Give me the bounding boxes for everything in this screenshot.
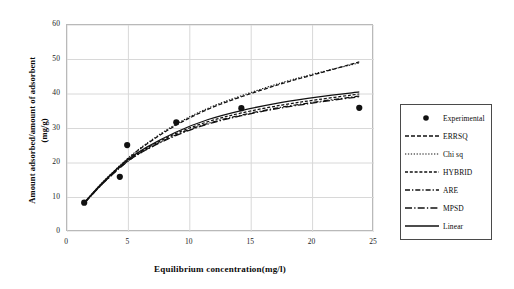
chart-figure: Amount adsorbed/amount of adsorbent (mg/… [0,0,514,289]
scatter-series-experimental [81,105,362,206]
legend-label: ARE [440,186,458,195]
y-axis-tick-label: 50 [34,54,60,63]
plot-area [66,24,373,231]
legend-key-icon [404,202,440,214]
legend-item-hybrid[interactable]: HYBRID [404,163,488,181]
y-axis-tick-label: 40 [34,88,60,97]
x-axis-tick-label: 0 [54,237,78,246]
data-point [356,105,362,111]
y-axis-tick-label: 30 [34,123,60,132]
x-axis-tick-label: 5 [115,237,139,246]
data-point [124,142,130,148]
data-point [238,105,244,111]
legend-item-mpsd[interactable]: MPSD [404,199,488,217]
legend-label: ERRSQ [440,132,468,141]
x-axis-tick-label: 25 [361,237,385,246]
x-axis-tick-label: 15 [238,237,262,246]
legend-label: MPSD [440,204,464,213]
legend-key-icon [404,148,440,160]
series-line-chi-sq [84,63,359,203]
legend-label: HYBRID [440,168,472,177]
y-axis-tick-label: 0 [34,226,60,235]
legend-item-linear[interactable]: Linear [404,217,488,235]
legend-label: Linear [440,222,463,231]
x-axis-title: Equilibrium concentration(mg/l) [66,264,374,274]
data-point [117,174,123,180]
data-point [173,119,179,125]
gridlines [67,25,374,232]
legend-item-chi-sq[interactable]: Chi sq [404,145,488,163]
series-line-hybrid [84,94,359,203]
x-axis-tick-label: 20 [300,237,324,246]
series-line-errsq [84,62,359,203]
plot-canvas [67,25,374,232]
legend-label: Chi sq [440,150,463,159]
legend-key-icon [404,166,440,178]
legend-label: Experimental [440,114,485,123]
chart-legend: ExperimentalERRSQChi sqHYBRIDAREMPSDLine… [400,104,492,240]
legend-item-errsq[interactable]: ERRSQ [404,127,488,145]
y-axis-tick-label: 20 [34,157,60,166]
y-axis-tick-label: 60 [34,19,60,28]
legend-key-icon [404,130,440,142]
x-axis-tick-label: 10 [177,237,201,246]
legend-key-icon [404,184,440,196]
legend-key-icon [404,220,440,232]
legend-item-are[interactable]: ARE [404,181,488,199]
data-point [81,200,87,206]
legend-key-icon [404,112,440,124]
y-axis-tick-label: 10 [34,192,60,201]
series-line-are [84,96,359,203]
legend-item-experimental[interactable]: Experimental [404,109,488,127]
series-line-mpsd [84,97,359,204]
